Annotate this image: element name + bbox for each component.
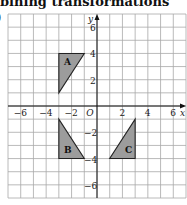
origin-label: O [86, 108, 94, 118]
x-tick-label: −4 [39, 108, 53, 118]
coordinate-grid: ABC x y O −6−4−2246642−2−4−6 [0, 0, 187, 205]
x-axis-label: x [180, 108, 185, 118]
x-tick-label: 2 [119, 108, 125, 118]
x-tick-label: −2 [65, 108, 78, 118]
tick-labels: −6−4−2246642−2−4−6 [14, 23, 177, 191]
triangle-label-b: B [64, 145, 72, 155]
y-tick-label: 6 [90, 23, 96, 33]
y-tick-label: −4 [84, 155, 98, 165]
x-tick-label: 4 [145, 108, 151, 118]
x-tick-label: 6 [170, 108, 176, 118]
x-tick-label: −6 [14, 108, 28, 118]
y-axis-arrow-icon [95, 14, 100, 20]
y-tick-label: 2 [90, 76, 96, 86]
axes: x y O [8, 14, 186, 198]
triangle-label-c: C [125, 145, 132, 155]
triangle-label-a: A [63, 57, 72, 67]
y-tick-label: 4 [90, 49, 96, 59]
y-tick-label: −2 [84, 128, 97, 138]
y-tick-label: −6 [84, 181, 98, 191]
